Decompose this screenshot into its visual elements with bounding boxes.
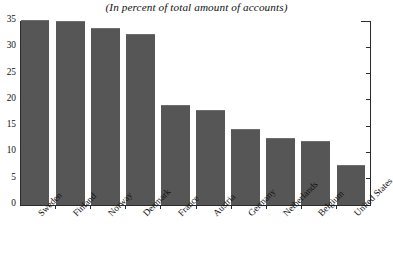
x-tick-mark xyxy=(336,205,337,209)
bar xyxy=(126,34,155,205)
y-tick-label: 0 xyxy=(0,198,16,208)
bar-series xyxy=(20,21,371,205)
x-tick-mark xyxy=(301,205,302,209)
y-tick-label: 20 xyxy=(0,93,16,103)
y-tick-label: 10 xyxy=(0,145,16,155)
y-tick-label: 30 xyxy=(0,40,16,50)
chart-title: (In percent of total amount of accounts) xyxy=(0,1,393,13)
bar xyxy=(196,110,225,205)
bar xyxy=(56,21,85,205)
x-tick-mark xyxy=(196,205,197,209)
x-axis-category-labels: SwedenFinlandNorwayDenmarkFranceAustriaG… xyxy=(20,211,393,258)
x-tick-mark xyxy=(266,205,267,209)
y-tick-label: 15 xyxy=(0,119,16,129)
bar xyxy=(231,129,260,205)
bar-chart-figure: (In percent of total amount of accounts)… xyxy=(0,0,393,258)
y-tick-label: 5 xyxy=(0,172,16,182)
bar xyxy=(21,20,50,205)
x-tick-mark xyxy=(231,205,232,209)
y-tick-label: 25 xyxy=(0,67,16,77)
y-tick-label: 35 xyxy=(0,14,16,24)
plot-area: 05101520253035 xyxy=(20,21,371,205)
bar xyxy=(91,28,120,205)
